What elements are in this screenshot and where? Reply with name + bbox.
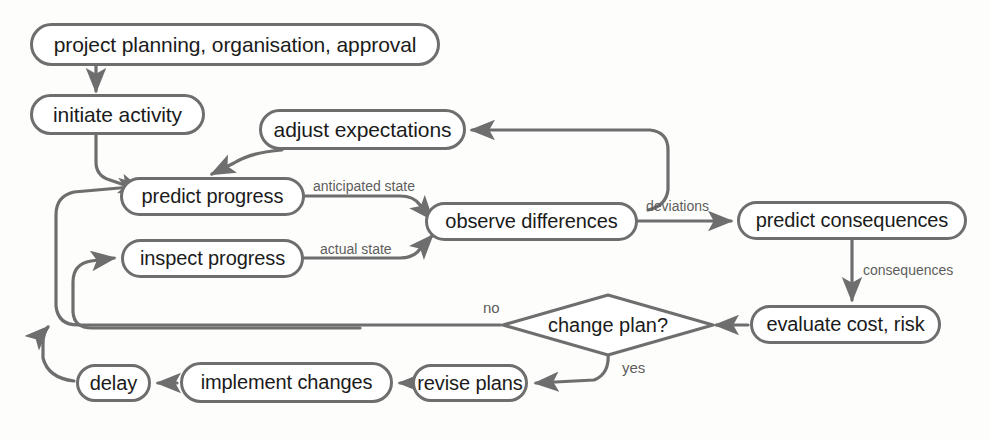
edge-label-deviations: deviations: [646, 198, 709, 214]
node-initiate-activity-label: initiate activity: [53, 103, 182, 127]
node-predict-progress-label: predict progress: [142, 185, 284, 208]
edge-label-consequences: consequences: [863, 262, 953, 278]
node-project-planning[interactable]: project planning, organisation, approval: [30, 23, 440, 66]
node-revise-plans-label: revise plans: [417, 372, 523, 395]
edge-label-actual-state-text: actual state: [320, 241, 392, 257]
node-evaluate-cost-risk[interactable]: evaluate cost, risk: [750, 305, 941, 344]
node-initiate-activity[interactable]: initiate activity: [30, 94, 205, 135]
edge-label-anticipated-state: anticipated state: [313, 178, 415, 194]
edge-label-no: no: [483, 299, 500, 316]
edge-label-yes: yes: [622, 359, 645, 376]
edge-label-yes-text: yes: [622, 359, 645, 376]
node-delay-label: delay: [90, 372, 137, 395]
edge-label-consequences-text: consequences: [863, 262, 953, 278]
node-project-planning-label: project planning, organisation, approval: [54, 33, 417, 57]
edge-predict-to-observe: [305, 196, 432, 219]
node-delay[interactable]: delay: [76, 364, 151, 402]
edge-adjust-to-predict: [212, 150, 282, 174]
node-predict-consequences-label: predict consequences: [756, 209, 949, 232]
node-implement-changes[interactable]: implement changes: [180, 362, 393, 403]
node-change-plan-label: change plan?: [548, 314, 668, 337]
node-implement-changes-label: implement changes: [201, 371, 373, 394]
node-inspect-progress[interactable]: inspect progress: [121, 239, 304, 278]
node-adjust-expectations[interactable]: adjust expectations: [259, 109, 466, 150]
edge-observe-to-adjust: [472, 130, 668, 210]
node-adjust-expectations-label: adjust expectations: [274, 118, 452, 142]
edge-label-no-text: no: [483, 299, 500, 316]
node-evaluate-cost-risk-label: evaluate cost, risk: [766, 313, 924, 336]
node-observe-differences-label: observe differences: [445, 210, 617, 233]
node-predict-progress[interactable]: predict progress: [120, 177, 305, 216]
node-predict-consequences[interactable]: predict consequences: [737, 201, 967, 240]
node-inspect-progress-label: inspect progress: [140, 247, 285, 270]
node-observe-differences[interactable]: observe differences: [425, 202, 638, 241]
edge-delay-to-loop: [43, 327, 74, 381]
edge-label-anticipated-state-text: anticipated state: [313, 178, 415, 194]
flowchart-canvas: project planning, organisation, approval…: [0, 0, 989, 440]
edge-label-actual-state: actual state: [320, 241, 392, 257]
edge-label-deviations-text: deviations: [646, 198, 709, 214]
node-revise-plans[interactable]: revise plans: [412, 364, 528, 402]
node-change-plan[interactable]: change plan?: [500, 292, 716, 358]
